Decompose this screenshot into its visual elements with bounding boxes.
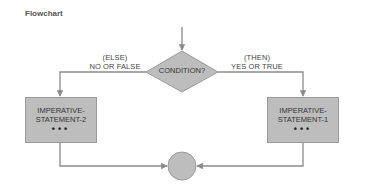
else-branch-line xyxy=(60,72,146,96)
connector-circle xyxy=(168,152,196,180)
box-line1: IMPERATIVE- xyxy=(37,106,84,115)
box-line2: STATEMENT-1 xyxy=(278,115,329,124)
box-line1: IMPERATIVE- xyxy=(279,106,326,115)
ellipsis-dots: ••• xyxy=(294,125,312,134)
else-label-line2: NO OR FALSE xyxy=(80,62,150,71)
then-label: (THEN) YES OR TRUE xyxy=(222,53,292,71)
then-branch-line xyxy=(218,72,303,96)
ellipsis-dots: ••• xyxy=(52,125,70,134)
box-line2: STATEMENT-2 xyxy=(36,115,87,124)
else-label-line1: (ELSE) xyxy=(80,53,150,62)
right-merge-line xyxy=(197,143,303,166)
imperative-statement-2-box: IMPERATIVE- STATEMENT-2 ••• xyxy=(25,97,97,143)
then-label-line2: YES OR TRUE xyxy=(222,62,292,71)
then-label-line1: (THEN) xyxy=(222,53,292,62)
flowchart-connectors xyxy=(0,0,365,192)
else-label: (ELSE) NO OR FALSE xyxy=(80,53,150,71)
imperative-statement-1-box: IMPERATIVE- STATEMENT-1 ••• xyxy=(267,97,339,143)
left-merge-line xyxy=(60,143,167,166)
decision-label: CONDITION? xyxy=(146,66,218,75)
